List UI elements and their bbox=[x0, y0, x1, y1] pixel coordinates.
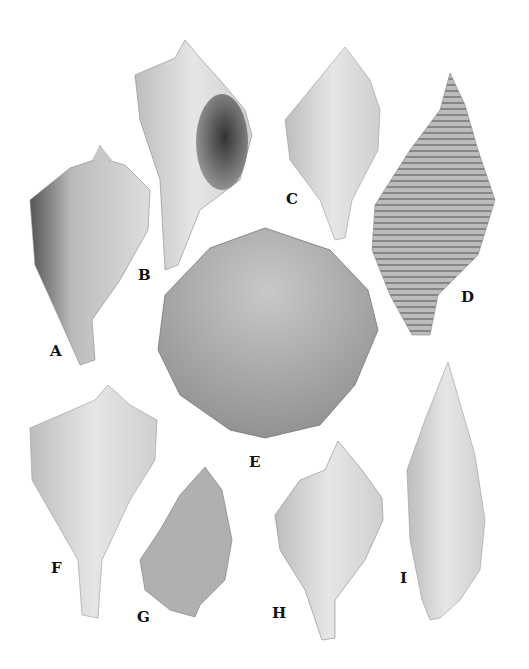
shell-illustrations bbox=[0, 0, 529, 669]
fossil-shell-plate: A B C D E F G H I bbox=[0, 0, 529, 669]
specimen-d bbox=[372, 73, 495, 335]
label-f: F bbox=[51, 561, 62, 576]
specimen-i bbox=[407, 362, 485, 620]
label-c: C bbox=[286, 192, 298, 207]
specimen-c bbox=[285, 47, 380, 240]
label-h: H bbox=[272, 606, 286, 621]
label-g: G bbox=[137, 610, 150, 625]
label-e: E bbox=[249, 455, 260, 470]
label-b: B bbox=[138, 268, 151, 283]
specimen-a bbox=[30, 145, 150, 365]
label-d: D bbox=[461, 290, 474, 305]
specimen-e bbox=[158, 228, 378, 438]
specimen-f bbox=[30, 385, 157, 618]
label-i: I bbox=[400, 571, 407, 586]
specimen-h bbox=[275, 441, 383, 640]
specimen-b bbox=[135, 40, 252, 270]
specimen-g bbox=[140, 467, 232, 617]
label-a: A bbox=[50, 344, 62, 359]
